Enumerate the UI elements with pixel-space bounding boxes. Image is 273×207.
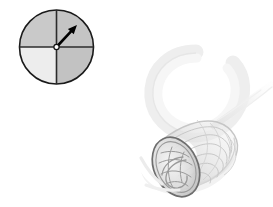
figure-canvas — [0, 0, 273, 207]
figure-root: Quadrant dial with spiral horn surface q… — [0, 0, 273, 207]
quadrant-dial[interactable] — [20, 10, 94, 84]
dial-center-pivot — [54, 44, 59, 49]
